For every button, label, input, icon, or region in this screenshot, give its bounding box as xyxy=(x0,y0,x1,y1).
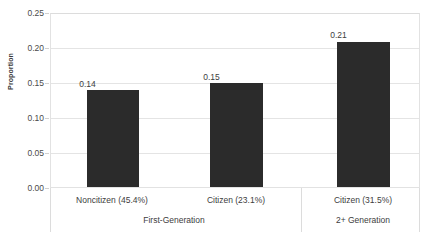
category-label: Noncitizen (45.4%) xyxy=(60,195,164,206)
category-axis-region: Noncitizen (45.4%) Citizen (23.1%) Citiz… xyxy=(50,188,420,232)
group-separator xyxy=(301,188,302,232)
category-label: Citizen (31.5%) xyxy=(311,195,415,206)
bar-chart: Proportion 0.25 0.20 0.15 0.10 0.05 0.00… xyxy=(0,0,433,242)
y-tick-label: 0.25 xyxy=(6,8,44,18)
axis-border-left xyxy=(50,188,51,232)
bar-value-label: 0.14 xyxy=(36,79,139,89)
bar-value-label: 0.15 xyxy=(160,72,263,82)
y-tick-mark xyxy=(45,188,49,189)
y-tick-mark xyxy=(45,153,49,154)
bar[interactable] xyxy=(87,90,139,187)
y-tick-label: 0.00 xyxy=(6,183,44,193)
bar-value-label: 0.21 xyxy=(287,30,390,40)
category-label: Citizen (23.1%) xyxy=(184,195,288,206)
y-tick-mark xyxy=(45,13,49,14)
y-tick-label: 0.20 xyxy=(6,43,44,53)
y-axis-tick-labels: 0.25 0.20 0.15 0.10 0.05 0.00 xyxy=(0,0,44,242)
bar[interactable] xyxy=(337,42,390,187)
axis-border-right xyxy=(419,188,420,232)
y-tick-label: 0.05 xyxy=(6,148,44,158)
y-tick-label: 0.10 xyxy=(6,113,44,123)
bar[interactable] xyxy=(210,83,263,187)
group-label: 2+ Generation xyxy=(311,215,415,226)
y-tick-mark xyxy=(45,118,49,119)
group-label: First-Generation xyxy=(122,215,226,226)
y-tick-mark xyxy=(45,48,49,49)
